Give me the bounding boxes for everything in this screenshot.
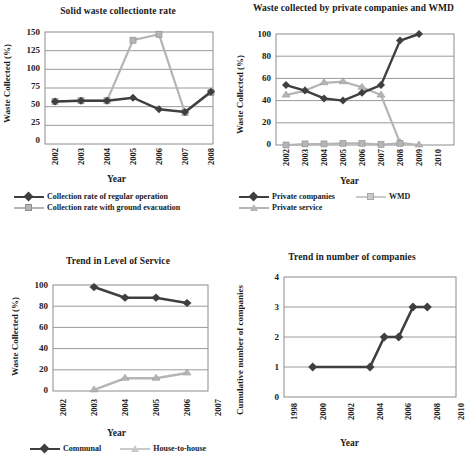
x-tick-2006: 2006 [358, 149, 367, 166]
legend-label: Private service [272, 203, 322, 212]
legend-row: Collection rate of regular operation [14, 192, 180, 201]
plot-area [284, 277, 456, 397]
x-axis-label: Year [0, 428, 233, 438]
y-tick-20: 20 [22, 365, 48, 374]
legend-item-ground-evacuation[interactable]: Collection rate with ground evacuation [14, 203, 180, 212]
legend-item-wmd[interactable]: WMD [356, 192, 410, 201]
x-tick-2006: 2006 [404, 403, 413, 420]
legend-item-private-service[interactable]: Private service [239, 203, 322, 212]
legend: Collection rate of regular operation Col… [14, 192, 180, 214]
legend-label: Communal [63, 444, 101, 453]
x-tick-2007: 2007 [181, 148, 190, 165]
chart-title: Trend in Level of Service [18, 256, 218, 267]
line-marker-diamond-icon [14, 192, 44, 201]
y-tick-3: 3 [257, 303, 279, 312]
y-tick-40: 40 [22, 344, 48, 353]
y-tick-25: 25 [14, 118, 40, 127]
y-tick-100: 100 [245, 30, 271, 39]
legend-label: WMD [389, 192, 410, 201]
chart-panel-trend-in-number-of-companies: Trend in number of companies Cumulative … [233, 248, 466, 469]
x-tick-2007: 2007 [214, 399, 223, 416]
legend-label: Private companies [272, 192, 335, 201]
y-axis-label: Waste Collected (%) [10, 282, 20, 392]
x-tick-2009: 2009 [415, 149, 424, 166]
x-tick-2006: 2006 [155, 148, 164, 165]
y-tick-0: 0 [14, 136, 40, 145]
figure-sheet: Solid waste collectionte rate Waste Coll… [0, 0, 466, 469]
legend-row: Private service [239, 203, 410, 212]
y-tick-0: 0 [245, 140, 271, 149]
chart-panel-solid-waste-collection-rate: Solid waste collectionte rate Waste Coll… [0, 0, 233, 230]
x-tick-2002: 2002 [51, 148, 60, 165]
x-tick-2002: 2002 [282, 149, 291, 166]
y-tick-150: 150 [14, 28, 40, 37]
legend: Communal House-to-house [30, 444, 206, 455]
y-tick-100: 100 [14, 64, 40, 73]
legend-label: Collection rate of regular operation [47, 192, 168, 201]
x-axis-label: Year [233, 438, 466, 448]
x-tick-2010: 2010 [434, 149, 443, 166]
y-axis-label: Waste Collected (%) [235, 42, 245, 147]
chart-title: Solid waste collectionte rate [18, 6, 218, 17]
y-axis-label: Waste Collected (%) [2, 34, 12, 134]
x-tick-1998: 1998 [290, 403, 299, 420]
y-tick-80: 80 [245, 52, 271, 61]
chart-title: Waste collected by private companies and… [251, 3, 456, 14]
x-tick-2002: 2002 [347, 403, 356, 420]
legend-item-house-to-house[interactable]: House-to-house [120, 444, 206, 453]
x-tick-2004: 2004 [121, 399, 130, 416]
plot-area [276, 34, 454, 145]
legend-row: Communal House-to-house [30, 444, 206, 453]
y-tick-125: 125 [14, 46, 40, 55]
x-axis-label: Year [0, 174, 233, 184]
legend: Private companies WMD Private serv [239, 192, 410, 214]
legend-item-private-companies[interactable]: Private companies [239, 192, 335, 201]
y-tick-0: 0 [257, 393, 279, 402]
y-tick-80: 80 [22, 302, 48, 311]
x-tick-2008: 2008 [433, 403, 442, 420]
line-marker-triangle-icon [120, 444, 150, 453]
x-tick-2004: 2004 [103, 148, 112, 165]
y-tick-75: 75 [14, 82, 40, 91]
legend-row: Private companies WMD [239, 192, 410, 201]
y-tick-2: 2 [257, 333, 279, 342]
chart-title: Trend in number of companies [247, 252, 457, 263]
x-tick-2005: 2005 [152, 399, 161, 416]
x-tick-2004: 2004 [376, 403, 385, 420]
y-tick-20: 20 [245, 118, 271, 127]
x-tick-2010: 2010 [457, 403, 466, 420]
line-marker-triangle-icon [239, 203, 269, 212]
legend-item-regular-operation[interactable]: Collection rate of regular operation [14, 192, 168, 201]
x-tick-2003: 2003 [90, 399, 99, 416]
plot-area [45, 32, 213, 144]
x-tick-2008: 2008 [396, 149, 405, 166]
y-tick-1: 1 [257, 363, 279, 372]
x-tick-2005: 2005 [339, 149, 348, 166]
y-tick-50: 50 [14, 100, 40, 109]
x-tick-2005: 2005 [129, 148, 138, 165]
y-tick-60: 60 [22, 323, 48, 332]
x-tick-2003: 2003 [301, 149, 310, 166]
x-axis-label: Year [233, 176, 466, 186]
y-axis-label: Cumulative number of companies [235, 270, 245, 430]
y-tick-60: 60 [245, 74, 271, 83]
line-marker-square-icon [356, 192, 386, 201]
x-tick-2000: 2000 [319, 403, 328, 420]
chart-panel-trend-in-level-of-service: Trend in Level of Service Waste Collecte… [0, 248, 233, 469]
y-tick-0: 0 [22, 386, 48, 395]
legend-item-communal[interactable]: Communal [30, 444, 101, 453]
x-tick-2003: 2003 [77, 148, 86, 165]
legend-label: House-to-house [153, 444, 206, 453]
x-tick-2006: 2006 [183, 399, 192, 416]
chart-panel-waste-collected-private-companies-wmd: Waste collected by private companies and… [233, 0, 466, 230]
y-tick-100: 100 [22, 281, 48, 290]
line-marker-square-icon [14, 203, 44, 212]
x-tick-2007: 2007 [377, 149, 386, 166]
x-tick-2008: 2008 [207, 148, 216, 165]
x-tick-2004: 2004 [320, 149, 329, 166]
plot-area [53, 285, 208, 391]
legend-label: Collection rate with ground evacuation [47, 203, 180, 212]
line-marker-diamond-icon [30, 444, 60, 453]
line-marker-diamond-icon [239, 192, 269, 201]
x-tick-2002: 2002 [59, 399, 68, 416]
